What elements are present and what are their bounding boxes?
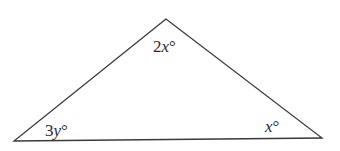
- angle-label-bottom-left: 3y°: [45, 121, 68, 140]
- angle-label-bottom-right: x°: [264, 117, 279, 136]
- triangle-diagram: 2x° 3y° x°: [0, 0, 340, 151]
- angle-label-top: 2x°: [153, 37, 176, 56]
